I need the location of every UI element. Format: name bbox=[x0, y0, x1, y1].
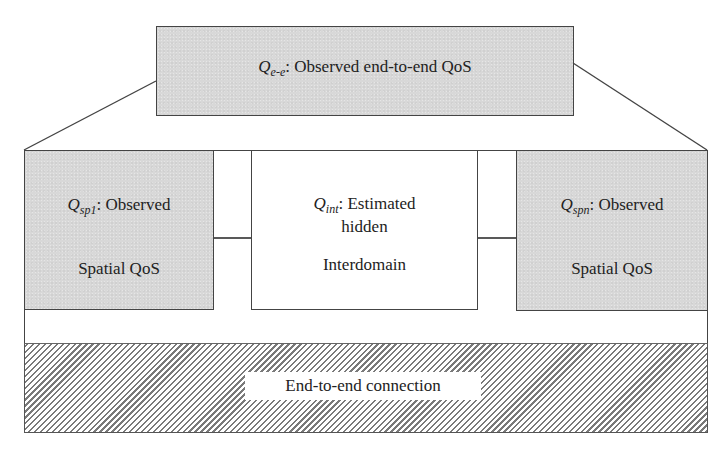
sp1-line1: Qsp1: Observed bbox=[25, 195, 213, 215]
int-line3: Interdomain bbox=[252, 255, 477, 275]
end-to-end-connection-label: End-to-end connection bbox=[245, 372, 481, 400]
qos-diagram: End-to-end connection Qe-e: Observed end… bbox=[0, 0, 725, 452]
end-to-end-qos-label: Qe-e: Observed end-to-end QoS bbox=[157, 57, 573, 77]
right-diagonal-connector bbox=[573, 63, 707, 150]
connection-label-text: End-to-end connection bbox=[285, 376, 440, 395]
spn-line1: Qspn: Observed bbox=[517, 195, 707, 215]
left-diagonal-connector bbox=[24, 81, 156, 150]
observed-end-to-end-qos-box: Qe-e: Observed end-to-end QoS bbox=[156, 26, 574, 116]
q-symbol: Qe-e bbox=[258, 57, 285, 76]
estimated-hidden-interdomain-box: Qint: Estimated hidden Interdomain bbox=[251, 150, 478, 310]
int-line2: hidden bbox=[252, 217, 477, 237]
observed-spatial-qos-sp1-box: Qsp1: Observed Spatial QoS bbox=[24, 150, 214, 310]
sp1-line2: Spatial QoS bbox=[25, 259, 213, 279]
observed-spatial-qos-spn-box: Qspn: Observed Spatial QoS bbox=[516, 150, 708, 311]
spn-line2: Spatial QoS bbox=[517, 259, 707, 279]
int-line1: Qint: Estimated bbox=[252, 194, 477, 214]
